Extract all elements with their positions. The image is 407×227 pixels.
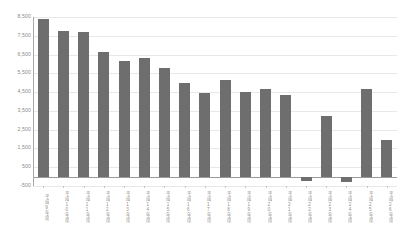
x-tick-mark: [306, 186, 307, 188]
x-tick-label: 平成22年度: [300, 188, 312, 226]
y-tick-label: 500: [1, 165, 31, 170]
y-tick-label: 7,500: [1, 33, 31, 38]
x-axis-tick-labels: 平成9年度平成10年度平成11年度平成12年度平成13年度平成14年度平成15年…: [33, 188, 397, 227]
bar: [159, 68, 170, 177]
y-tick-label: 6,500: [1, 52, 31, 57]
bar: [58, 31, 69, 177]
x-tick-mark: [286, 186, 287, 188]
bar: [38, 19, 49, 177]
x-tick-label: 平成25年度: [361, 188, 373, 226]
x-tick-label: 平成9年度: [37, 188, 49, 226]
x-tick-label: 平成15年度: [158, 188, 170, 226]
x-tick-label: 平成21年度: [280, 188, 292, 226]
x-tick-mark: [245, 186, 246, 188]
x-tick-mark: [84, 186, 85, 188]
x-tick-mark: [225, 186, 226, 188]
gridline: [33, 17, 397, 18]
bar-chart: 8,5007,5006,5005,5004,5003,5002,5001,500…: [0, 0, 407, 227]
bar: [78, 32, 89, 177]
x-tick-label: 平成10年度: [57, 188, 69, 226]
x-tick-label: 平成13年度: [118, 188, 130, 226]
bar: [179, 83, 190, 177]
x-tick-label: 平成23年度: [320, 188, 332, 226]
y-tick-label: 3,500: [1, 108, 31, 113]
bar: [119, 61, 130, 176]
x-tick-mark: [266, 186, 267, 188]
x-tick-mark: [164, 186, 165, 188]
x-tick-mark: [185, 186, 186, 188]
x-tick-mark: [124, 186, 125, 188]
bar: [220, 80, 231, 177]
x-tick-mark: [63, 186, 64, 188]
bar: [240, 92, 251, 177]
y-tick-label: 8,500: [1, 14, 31, 19]
bar: [98, 52, 109, 177]
x-tick-label: 平成11年度: [78, 188, 90, 226]
x-tick-label: 平成12年度: [98, 188, 110, 226]
bar: [381, 140, 392, 177]
y-axis-tick-labels: 8,5007,5006,5005,5004,5003,5002,5001,500…: [0, 17, 31, 186]
x-tick-mark: [387, 186, 388, 188]
plot-area: [33, 17, 397, 186]
x-tick-label: 平成20年度: [260, 188, 272, 226]
bar: [260, 89, 271, 176]
x-tick-label: 平成19年度: [239, 188, 251, 226]
gridline: [33, 186, 397, 187]
bar: [301, 177, 312, 182]
x-tick-label: 平成16年度: [179, 188, 191, 226]
x-tick-label: 平成14年度: [138, 188, 150, 226]
bar: [199, 93, 210, 177]
y-tick-label: 1,500: [1, 146, 31, 151]
x-tick-mark: [205, 186, 206, 188]
x-tick-mark: [326, 186, 327, 188]
x-tick-mark: [43, 186, 44, 188]
y-tick-label: 5,500: [1, 71, 31, 76]
bar: [139, 58, 150, 176]
bar: [280, 95, 291, 177]
y-tick-label: 4,500: [1, 90, 31, 95]
bar: [361, 89, 372, 176]
x-tick-label: 平成26年度: [381, 188, 393, 226]
x-tick-mark: [144, 186, 145, 188]
x-tick-label: 平成18年度: [219, 188, 231, 226]
y-tick-label: 2,500: [1, 127, 31, 132]
bar: [321, 116, 332, 177]
x-tick-label: 平成17年度: [199, 188, 211, 226]
x-tick-label: 平成24年度: [340, 188, 352, 226]
x-tick-mark: [367, 186, 368, 188]
x-tick-mark: [346, 186, 347, 188]
y-tick-label: -500: [1, 183, 31, 188]
x-tick-mark: [104, 186, 105, 188]
bar: [341, 177, 352, 183]
y-axis-spine: [33, 17, 34, 186]
